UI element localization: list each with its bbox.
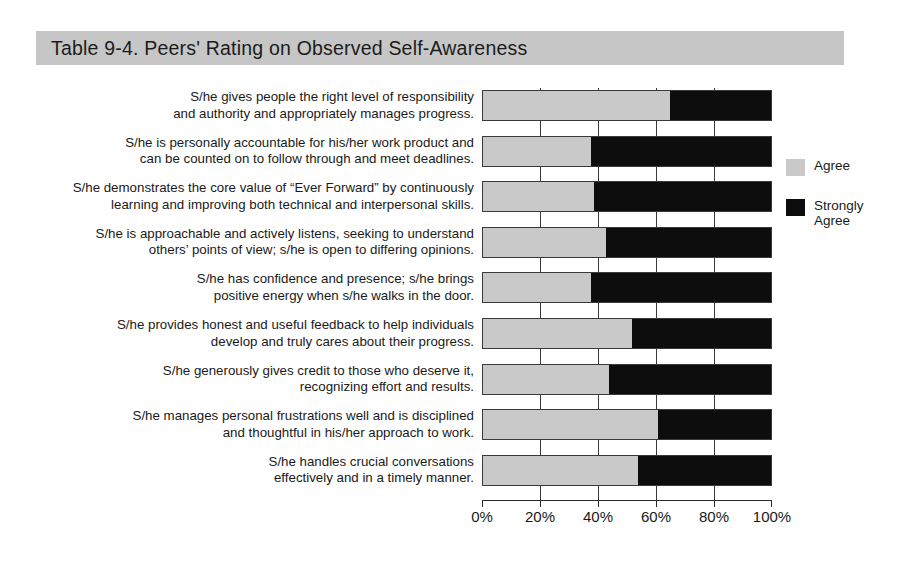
x-axis-tick [540,500,541,507]
chart-row-label: S/he is personally accountable for his/h… [44,135,474,168]
chart-bar [482,364,772,395]
x-axis-tick [482,500,483,507]
bar-segment-agree [483,319,634,348]
chart-bar [482,318,772,349]
legend-entry-strongly-agree: Strongly Agree [786,198,896,228]
chart-row-label-line2: and thoughtful in his/her approach to wo… [44,425,474,442]
chart-row: S/he is personally accountable for his/h… [0,134,908,178]
x-axis-tick-label: 0% [471,508,493,525]
x-axis-tick-label: 100% [753,508,791,525]
bar-segment-agree [483,182,596,211]
chart-row-label-line1: S/he has confidence and presence; s/he b… [197,271,474,286]
x-axis: 0%20%40%60%80%100% [482,500,772,540]
x-axis-tick-label: 80% [699,508,729,525]
chart-row-label-line2: recognizing effort and results. [44,379,474,396]
chart-row-label-line1: S/he provides honest and useful feedback… [117,317,474,332]
chart-row-label: S/he provides honest and useful feedback… [44,317,474,350]
bar-segment-strongly-agree [670,91,772,120]
x-axis-tick-label: 40% [583,508,613,525]
bar-segment-agree [483,365,611,394]
chart-row: S/he handles crucial conversationseffect… [0,453,908,497]
chart-row-label: S/he gives people the right level of res… [44,89,474,122]
chart-row-label-line1: S/he is approachable and actively listen… [96,226,474,241]
legend-label-agree: Agree [814,158,850,173]
chart-row-label-line1: S/he generously gives credit to those wh… [163,363,474,378]
bar-segment-agree [483,456,640,485]
chart-row-label-line1: S/he handles crucial conversations [269,454,474,469]
chart-row-label-line2: learning and improving both technical an… [44,197,474,214]
chart-bar [482,181,772,212]
bar-segment-strongly-agree [594,182,771,211]
chart-row-label: S/he is approachable and actively listen… [44,226,474,259]
chart-row-label-line1: S/he is personally accountable for his/h… [125,135,474,150]
bar-segment-strongly-agree [632,319,771,348]
chart-row-label: S/he generously gives credit to those wh… [44,363,474,396]
bar-segment-agree [483,410,660,439]
x-axis-tick [771,500,772,507]
chart-row-label-line1: S/he gives people the right level of res… [190,89,474,104]
chart-row: S/he manages personal frustrations well … [0,407,908,451]
x-axis-tick [714,500,715,507]
chart-bar [482,136,772,167]
chart-row-label-line2: and authority and appropriately manages … [44,106,474,123]
bar-segment-strongly-agree [658,410,771,439]
bar-segment-strongly-agree [609,365,771,394]
chart-row-label-line2: can be counted on to follow through and … [44,151,474,168]
table-title-banner: Table 9-4. Peers' Rating on Observed Sel… [36,31,844,65]
x-axis-tick-label: 20% [525,508,555,525]
chart-row: S/he demonstrates the core value of “Eve… [0,179,908,223]
chart-row: S/he provides honest and useful feedback… [0,316,908,360]
x-axis-line [482,500,772,501]
bar-segment-strongly-agree [606,228,771,257]
bar-segment-agree [483,228,608,257]
chart-bar [482,455,772,486]
legend-swatch-strongly-agree-icon [786,199,805,216]
chart-bar [482,90,772,121]
bar-segment-agree [483,91,672,120]
chart-row-label-line1: S/he demonstrates the core value of “Eve… [73,180,474,195]
chart-row-label-line2: effectively and in a timely manner. [44,470,474,487]
chart-bar [482,227,772,258]
chart-row-label: S/he handles crucial conversationseffect… [44,454,474,487]
x-axis-tick-label: 60% [641,508,671,525]
x-axis-tick [598,500,599,507]
x-axis-tick [656,500,657,507]
chart-row: S/he generously gives credit to those wh… [0,362,908,406]
bar-segment-agree [483,137,593,166]
chart-row: S/he gives people the right level of res… [0,88,908,132]
legend-swatch-agree-icon [786,159,805,176]
chart-row-label-line1: S/he manages personal frustrations well … [133,408,474,423]
page-title: Table 9-4. Peers' Rating on Observed Sel… [36,37,527,60]
chart-row: S/he is approachable and actively listen… [0,225,908,269]
legend-entry-agree: Agree [786,158,896,176]
chart-row-label-line2: others’ points of view; s/he is open to … [44,242,474,259]
bar-segment-strongly-agree [591,273,771,302]
chart-row-label-line2: positive energy when s/he walks in the d… [44,288,474,305]
chart-bar [482,409,772,440]
legend-label-strongly-agree: Strongly Agree [814,198,896,228]
bar-segment-strongly-agree [591,137,771,166]
chart-row-label-line2: develop and truly cares about their prog… [44,334,474,351]
chart-row-label: S/he demonstrates the core value of “Eve… [44,180,474,213]
chart-bar [482,272,772,303]
chart-row-label: S/he has confidence and presence; s/he b… [44,271,474,304]
chart-row-label: S/he manages personal frustrations well … [44,408,474,441]
chart-legend: Agree Strongly Agree [786,158,896,250]
bar-segment-strongly-agree [638,456,771,485]
chart-row: S/he has confidence and presence; s/he b… [0,270,908,314]
bar-segment-agree [483,273,593,302]
stacked-bar-chart: S/he gives people the right level of res… [0,88,908,528]
